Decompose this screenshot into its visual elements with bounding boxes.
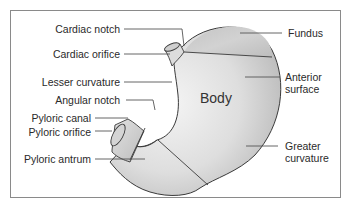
label-greater-line2: curvature (285, 152, 329, 164)
label-pyloric-canal: Pyloric canal (31, 112, 91, 124)
label-greater-line1: Greater (285, 140, 329, 152)
label-lesser-curvature: Lesser curvature (42, 76, 120, 88)
label-body: Body (200, 90, 232, 106)
label-pyloric-orifice: Pyloric orifice (29, 126, 91, 138)
label-cardiac-notch: Cardiac notch (55, 23, 120, 35)
label-angular-notch: Angular notch (55, 94, 120, 106)
label-fundus: Fundus (288, 27, 323, 39)
label-pyloric-antrum: Pyloric antrum (24, 153, 91, 165)
label-anterior-line2: surface (285, 83, 322, 95)
label-cardiac-orifice: Cardiac orifice (53, 48, 120, 60)
label-anterior-line1: Anterior (285, 71, 322, 83)
label-greater-curvature: Greater curvature (285, 140, 329, 164)
label-anterior-surface: Anterior surface (285, 71, 322, 95)
